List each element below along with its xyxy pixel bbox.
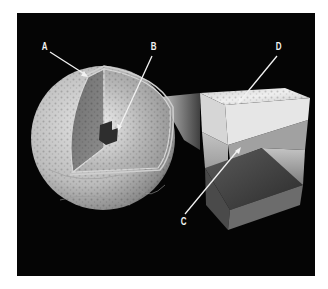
label-a: A	[42, 42, 48, 52]
label-b: B	[151, 42, 157, 52]
sphere-cutaway	[70, 66, 173, 175]
label-d: D	[276, 42, 282, 52]
label-c: C	[181, 217, 187, 227]
surface-block	[200, 88, 310, 230]
arrow-a	[50, 52, 86, 75]
